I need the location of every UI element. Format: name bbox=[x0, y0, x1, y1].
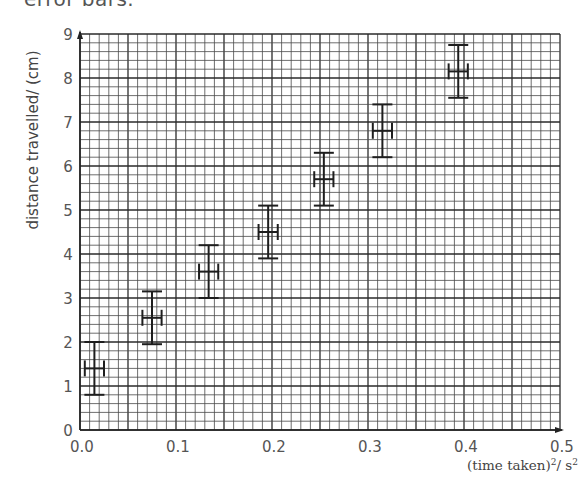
x-tick-label: 0.2 bbox=[262, 438, 286, 456]
y-tick-label: 5 bbox=[63, 202, 73, 220]
graph-paper-grid bbox=[80, 34, 560, 430]
data-point-with-error-bars bbox=[142, 291, 162, 344]
x-tick-label: 0.5 bbox=[550, 438, 574, 456]
y-tick-label: 1 bbox=[63, 378, 73, 396]
x-tick-label: 0.3 bbox=[358, 438, 382, 456]
y-tick-label: 2 bbox=[63, 334, 73, 352]
data-point-with-error-bars bbox=[372, 104, 392, 157]
data-point-with-error-bars bbox=[314, 153, 334, 206]
scatter-chart: 0123456789 0.00.10.20.30.40.5 bbox=[0, 0, 582, 481]
y-tick-label: 6 bbox=[63, 158, 73, 176]
y-axis-ticks: 0123456789 bbox=[63, 26, 73, 440]
y-tick-label: 7 bbox=[63, 114, 73, 132]
data-point-with-error-bars bbox=[84, 342, 104, 395]
y-tick-label: 4 bbox=[63, 246, 73, 264]
x-tick-label: 0.1 bbox=[166, 438, 190, 456]
data-point-with-error-bars bbox=[258, 206, 278, 259]
y-tick-label: 9 bbox=[63, 26, 73, 44]
y-tick-label: 8 bbox=[63, 70, 73, 88]
x-tick-label: 0.0 bbox=[70, 438, 94, 456]
y-tick-label: 3 bbox=[63, 290, 73, 308]
data-point-with-error-bars bbox=[448, 45, 468, 98]
x-axis-ticks: 0.00.10.20.30.40.5 bbox=[70, 438, 574, 456]
x-tick-label: 0.4 bbox=[454, 438, 478, 456]
data-point-with-error-bars bbox=[199, 245, 219, 298]
